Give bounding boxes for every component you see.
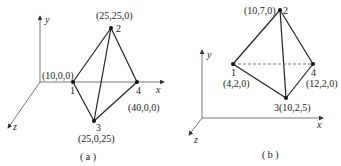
x-axis-label-b: x: [316, 119, 322, 130]
node-2-id-b: 2: [283, 5, 288, 16]
caption-a: ( a ): [80, 151, 96, 163]
node-3-coord-a: (25,0,25): [78, 133, 115, 145]
node-4-b: [311, 62, 315, 66]
node-3-id-a: 3: [96, 122, 101, 133]
node-1-b: [231, 62, 235, 66]
node-2-coord-b: (10,7,0): [244, 5, 276, 17]
node-4-coord-b: (12,2,0): [306, 78, 338, 90]
caption-b: ( b ): [262, 149, 279, 161]
node-4-id-a: 4: [136, 85, 141, 96]
x-axis-label-a: x: [155, 84, 161, 95]
figure-a: y x z 1 (10,0,0) 2 (25,25,0) 3 (25,0,25)…: [8, 10, 164, 163]
node-1-coord-b: (4,2,0): [223, 78, 250, 90]
tetrahedron-diagrams: y x z 1 (10,0,0) 2 (25,25,0) 3 (25,0,25)…: [0, 0, 341, 166]
node-2-a: [109, 26, 113, 30]
node-2-b: [278, 8, 282, 12]
node-1-coord-a: (10,0,0): [42, 70, 74, 82]
y-axis-label-b: y: [206, 49, 212, 60]
y-axis-label-a: y: [44, 14, 50, 25]
node-3-b: [284, 96, 288, 100]
node-1-id-a: 1: [70, 85, 75, 96]
z-axis-b: [189, 118, 202, 135]
z-axis-label-a: z: [12, 121, 17, 132]
axes-b: [189, 50, 323, 135]
node-4-id-b: 4: [311, 67, 316, 78]
node-1-id-b: 1: [231, 67, 236, 78]
node-3-coord-b: (10,2,5): [279, 102, 311, 114]
node-2-coord-a: (25,25,0): [96, 10, 133, 22]
node-2-id-a: 2: [116, 23, 121, 34]
z-axis-label-b: z: [193, 134, 198, 145]
node-4-a: [135, 80, 139, 84]
node-4-coord-a: (40,0,0): [128, 102, 160, 114]
figure-b: y x z 1 (4,2,0) 2 (10,7,0) 3 (10,2,5) 4 …: [189, 5, 338, 161]
